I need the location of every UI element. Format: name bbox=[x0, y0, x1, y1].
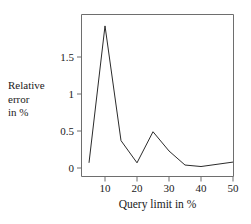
y-tick-label: 0.5 bbox=[44, 125, 74, 137]
y-tick-label: 1.5 bbox=[44, 51, 74, 63]
data-series-line bbox=[89, 26, 233, 167]
axis-ticks bbox=[77, 57, 233, 182]
plot-frame bbox=[82, 15, 234, 177]
x-tick-label: 30 bbox=[164, 182, 175, 194]
x-axis-label: Query limit in % bbox=[81, 198, 234, 210]
y-tick-label: 0 bbox=[44, 162, 74, 174]
x-tick-label: 20 bbox=[132, 182, 143, 194]
chart-figure: Relative error in % Query limit in % 00.… bbox=[0, 0, 251, 224]
x-tick-label: 10 bbox=[100, 182, 111, 194]
y-axis-label-line-3: in % bbox=[8, 106, 66, 120]
y-tick-label: 1 bbox=[44, 88, 74, 100]
x-tick-label: 50 bbox=[228, 182, 239, 194]
x-tick-label: 40 bbox=[196, 182, 207, 194]
